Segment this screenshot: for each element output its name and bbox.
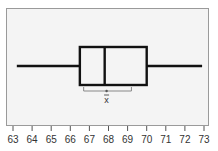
mean-label: x [104,95,109,105]
x-tick-label: 72 [179,134,191,145]
x-tick-label: 67 [84,134,96,145]
box-plot-chart: 6364656667686970717273 x [0,0,218,151]
x-tick-label: 68 [103,134,115,145]
x-tick-label: 69 [122,134,134,145]
x-tick-label: 65 [46,134,58,145]
mean-marker [105,90,107,92]
x-axis: 6364656667686970717273 [7,126,210,145]
x-tick-label: 63 [7,134,19,145]
x-tick-label: 64 [27,134,39,145]
x-tick-label: 71 [160,134,172,145]
x-tick-label: 70 [141,134,153,145]
x-tick-label: 73 [198,134,210,145]
x-tick-label: 66 [65,134,77,145]
